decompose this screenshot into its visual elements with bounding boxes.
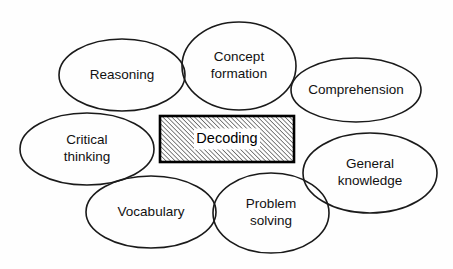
- concept-map-diagram: Decoding ReasoningConceptformationCompre…: [0, 0, 453, 269]
- node-label-critical-thinking: thinking: [64, 149, 111, 164]
- node-label-problem-solving: solving: [250, 213, 292, 228]
- node-label-reasoning: Reasoning: [90, 67, 155, 82]
- node-label-general-knowledge: General: [346, 156, 394, 171]
- node-label-concept-formation: Concept: [214, 49, 265, 64]
- diagram-canvas: Decoding ReasoningConceptformationCompre…: [0, 0, 453, 269]
- node-label-critical-thinking: Critical: [66, 132, 107, 147]
- center-box-layer: Decoding: [160, 116, 294, 162]
- center-label-decoding: Decoding: [196, 130, 257, 146]
- node-label-concept-formation: formation: [211, 66, 267, 81]
- node-label-comprehension: Comprehension: [308, 82, 403, 97]
- node-label-problem-solving: Problem: [246, 196, 296, 211]
- node-label-vocabulary: Vocabulary: [118, 204, 185, 219]
- node-label-general-knowledge: knowledge: [338, 173, 403, 188]
